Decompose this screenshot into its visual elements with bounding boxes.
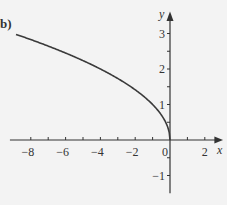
part-label: b) bbox=[0, 16, 12, 31]
y-axis-label: y bbox=[158, 7, 165, 21]
y-tick-label: −1 bbox=[152, 169, 165, 183]
x-tick-label: 0 bbox=[162, 145, 168, 159]
chart-svg: b) −8−6−4−202321−1xy bbox=[0, 0, 227, 205]
tick-labels: −8−6−4−202321−1xy bbox=[21, 7, 223, 183]
function-curve bbox=[16, 34, 170, 140]
x-tick-label: −2 bbox=[126, 145, 139, 159]
x-tick-label: 2 bbox=[202, 145, 208, 159]
x-tick-label: −8 bbox=[21, 145, 34, 159]
axes bbox=[10, 11, 223, 193]
y-tick-label: 1 bbox=[159, 98, 165, 112]
y-axis-arrow-icon bbox=[167, 11, 174, 21]
y-tick-label: 3 bbox=[159, 27, 165, 41]
x-axis-label: x bbox=[216, 143, 223, 157]
x-tick-label: −6 bbox=[56, 145, 69, 159]
y-tick-label: 2 bbox=[159, 62, 165, 76]
chart-figure: b) −8−6−4−202321−1xy bbox=[0, 0, 227, 205]
x-tick-label: −4 bbox=[91, 145, 104, 159]
